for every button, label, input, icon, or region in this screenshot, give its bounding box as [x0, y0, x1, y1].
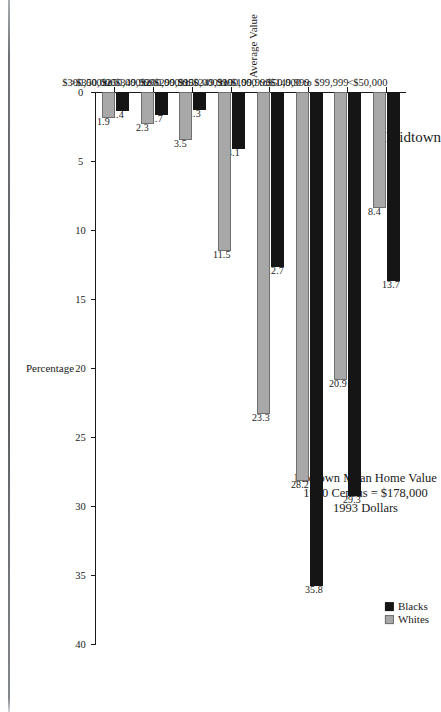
value-tick-label: 5: [71, 156, 91, 167]
value-tick: [91, 575, 96, 576]
bar-group: 35.828.2: [296, 92, 323, 644]
value-tick: [91, 644, 96, 645]
value-tick: [91, 299, 96, 300]
bar-whites: [257, 92, 270, 414]
bar-value-label: 1.9: [97, 117, 110, 127]
bar-whites: [373, 92, 386, 208]
bar-value-label: 28.2: [291, 480, 309, 490]
category-tick: [386, 87, 387, 92]
category-tick: [269, 87, 270, 92]
value-tick-label: 40: [71, 639, 91, 650]
bar-blacks: [348, 92, 361, 496]
category-tick-label: <$50,000: [347, 77, 387, 88]
bar-value-label: 35.8: [305, 585, 323, 595]
category-tick: [114, 87, 115, 92]
bar-group: 1.41.9: [102, 92, 129, 644]
value-tick-label: 35: [71, 570, 91, 581]
bar-whites: [179, 92, 192, 140]
category-tick: [192, 87, 193, 92]
category-tick: [347, 87, 348, 92]
bar-value-label: 23.3: [252, 413, 270, 423]
bar-blacks: [271, 92, 284, 267]
bar-group: 12.723.3: [257, 92, 284, 644]
bar-value-label: 29.3: [343, 495, 361, 505]
plot-area: 13.78.4<$50,00029.320.9$50,000 to $99,99…: [96, 92, 406, 644]
bar-value-label: 11.5: [213, 250, 231, 260]
bar-group: 29.320.9: [334, 92, 361, 644]
bar-group: 1.72.3: [141, 92, 168, 644]
value-tick-label: 15: [71, 294, 91, 305]
value-axis-title: Percentage: [20, 362, 80, 374]
value-tick: [91, 368, 96, 369]
bar-group: 13.78.4: [373, 92, 400, 644]
value-tick: [91, 230, 96, 231]
bar-value-label: 2.3: [136, 123, 149, 133]
value-tick: [91, 92, 96, 93]
bar-whites: [218, 92, 231, 251]
bar-value-label: 20.9: [329, 379, 347, 389]
bar-whites: [102, 92, 115, 118]
bar-blacks: [232, 92, 245, 149]
bar-blacks: [155, 92, 168, 115]
value-tick-label: 0: [71, 87, 91, 98]
value-tick: [91, 506, 96, 507]
bar-whites: [296, 92, 309, 481]
category-tick: [308, 87, 309, 92]
value-tick-label: 30: [71, 501, 91, 512]
value-tick-label: 25: [71, 432, 91, 443]
bar-blacks: [387, 92, 400, 281]
bar-value-label: 13.7: [382, 280, 400, 290]
value-tick-label: 10: [71, 225, 91, 236]
bar-group: 1.33.5: [179, 92, 206, 644]
bar-whites: [141, 92, 154, 124]
bar-whites: [334, 92, 347, 380]
category-tick: [231, 87, 232, 92]
bar-value-label: 8.4: [368, 207, 381, 217]
bar-group: 4.111.5: [218, 92, 245, 644]
value-tick: [91, 161, 96, 162]
category-tick: [153, 87, 154, 92]
category-axis-title: Average Value: [247, 6, 259, 86]
bar-blacks: [310, 92, 323, 586]
value-tick: [91, 437, 96, 438]
bar-value-label: 3.5: [174, 139, 187, 149]
